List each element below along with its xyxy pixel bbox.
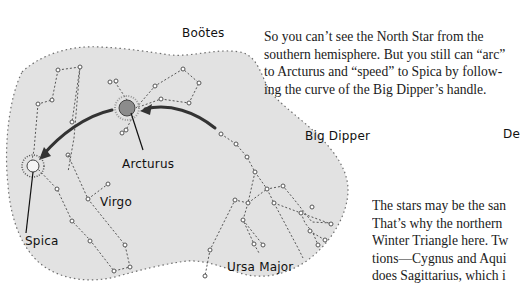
paragraph-line: ing the curve of the Big Dipper’s handle… bbox=[264, 81, 505, 99]
paragraph-line: does Sagittarius, which i bbox=[372, 267, 519, 285]
paragraph-line: tions—Cygnus and Aqui bbox=[372, 250, 519, 268]
label-arcturus: Arcturus bbox=[122, 157, 174, 171]
label-cut-off: De bbox=[503, 127, 520, 141]
label-spica: Spica bbox=[25, 234, 59, 248]
label-bootes: Boötes bbox=[182, 26, 224, 40]
paragraph-line: to Arcturus and “speed” to Spica by foll… bbox=[264, 63, 505, 81]
paragraph-bottom: The stars may be the san That’s why the … bbox=[372, 197, 519, 285]
label-big-dipper: Big Dipper bbox=[305, 129, 370, 143]
label-ursa-major: Ursa Major bbox=[227, 260, 293, 274]
paragraph-top: So you can’t see the North Star from the… bbox=[264, 28, 505, 98]
paragraph-line: Winter Triangle here. Tw bbox=[372, 232, 519, 250]
paragraph-line: So you can’t see the North Star from the bbox=[264, 28, 505, 46]
paragraph-line: The stars may be the san bbox=[372, 197, 519, 215]
paragraph-line: southern hemisphere. But you still can “… bbox=[264, 46, 505, 64]
paragraph-line: That’s why the northern bbox=[372, 215, 519, 233]
label-virgo: Virgo bbox=[100, 195, 132, 209]
